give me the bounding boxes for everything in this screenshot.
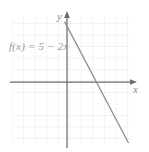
coordinate-plane: y x [0,0,149,152]
y-axis-label: y [56,10,62,22]
graph-figure: y x f(x) = 5 − 2x [0,0,149,152]
function-equation-label: f(x) = 5 − 2x [9,40,69,52]
x-axis-label: x [132,83,138,95]
